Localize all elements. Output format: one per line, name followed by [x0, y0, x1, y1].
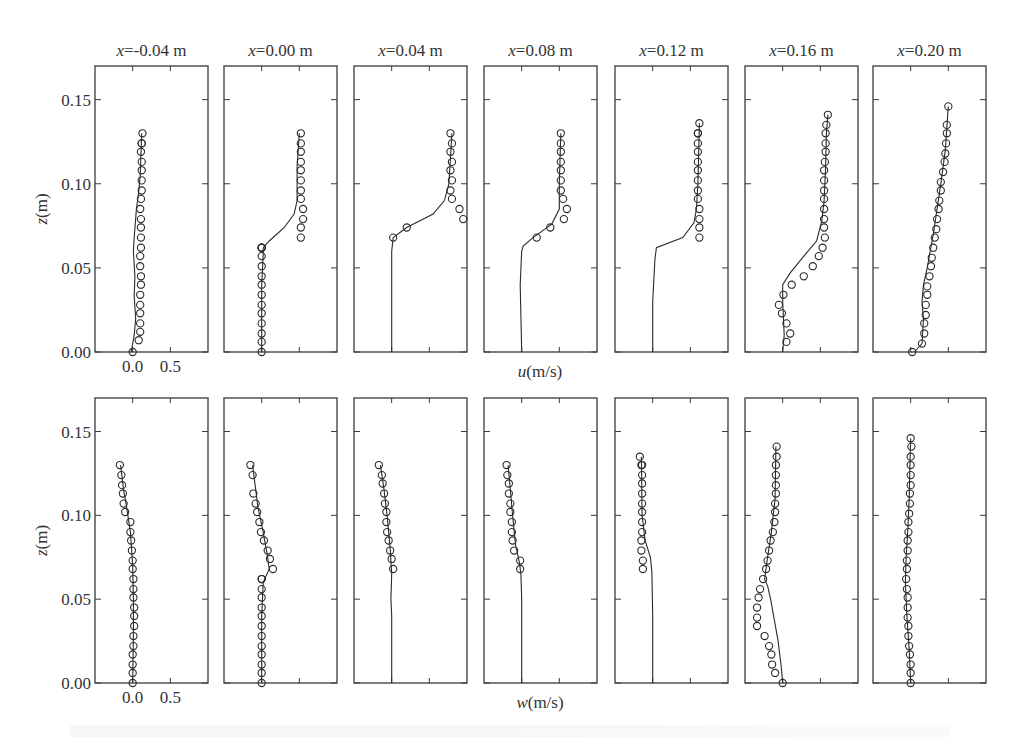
measured-point — [252, 500, 259, 507]
measured-point — [696, 215, 703, 222]
column-title: x=0.16 m — [768, 41, 833, 60]
x-tick-label: 0.0 — [122, 688, 143, 707]
measured-point — [638, 537, 645, 544]
measured-point — [560, 215, 567, 222]
column-title: x=0.04 m — [377, 41, 442, 60]
measured-point — [119, 482, 126, 489]
measured-point — [903, 575, 910, 582]
column-title: x=0.00 m — [247, 41, 312, 60]
model-line — [508, 465, 522, 683]
panel-r1-c4 — [615, 398, 728, 683]
x-tick-label: 0.5 — [160, 688, 181, 707]
caption-faded — [70, 725, 950, 737]
measured-point — [639, 557, 646, 564]
measured-point — [933, 215, 940, 222]
model-line — [783, 115, 828, 352]
measured-point — [297, 130, 304, 137]
measured-point — [300, 205, 307, 212]
panel-r1-c5 — [745, 398, 858, 687]
measured-point — [297, 224, 304, 231]
measured-point — [508, 518, 515, 525]
measured-point — [696, 224, 703, 231]
measured-point — [258, 594, 265, 601]
measured-point — [771, 518, 778, 525]
measured-point — [761, 632, 768, 639]
panel-r0-c5: x=0.16 m — [745, 41, 858, 352]
x-tick-label: 0.0 — [122, 357, 143, 376]
measured-point — [557, 177, 564, 184]
measured-point — [503, 461, 510, 468]
measured-point — [258, 263, 265, 270]
measured-point — [907, 482, 914, 489]
measured-point — [907, 461, 914, 468]
measured-point — [383, 518, 390, 525]
measured-point — [447, 167, 454, 174]
measured-point — [447, 130, 454, 137]
measured-point — [922, 301, 929, 308]
x-axis-label: w(m/s) — [516, 693, 563, 712]
measured-point — [138, 177, 145, 184]
column-title: x=0.08 m — [507, 41, 572, 60]
measured-point — [131, 604, 138, 611]
measured-point — [756, 586, 763, 593]
measured-point — [815, 253, 822, 260]
measured-point — [116, 461, 123, 468]
measured-point — [694, 140, 701, 147]
measured-point — [780, 291, 787, 298]
measured-point — [137, 195, 144, 202]
model-line — [914, 106, 948, 352]
measured-point — [924, 291, 931, 298]
measured-point — [821, 167, 828, 174]
measured-point — [137, 291, 144, 298]
model-line — [380, 465, 391, 683]
measured-point — [269, 565, 276, 572]
measured-point — [139, 130, 146, 137]
x-tick-label: 0.5 — [160, 357, 181, 376]
model-line — [392, 133, 452, 352]
measured-point — [768, 651, 775, 658]
measured-point — [787, 330, 794, 337]
measured-point — [800, 273, 807, 280]
measured-point — [921, 330, 928, 337]
measured-point — [384, 529, 391, 536]
measured-point — [138, 167, 145, 174]
measured-point — [905, 622, 912, 629]
measured-point — [772, 490, 779, 497]
measured-point — [819, 244, 826, 251]
measured-point — [821, 177, 828, 184]
model-line — [121, 465, 134, 683]
measured-point — [448, 195, 455, 202]
measured-point — [137, 281, 144, 288]
measured-point — [904, 547, 911, 554]
column-title: x=-0.04 m — [115, 41, 186, 60]
measured-point — [905, 529, 912, 536]
measured-point — [759, 575, 766, 582]
measured-point — [119, 490, 126, 497]
column-title: x=0.12 m — [638, 41, 703, 60]
measured-point — [694, 148, 701, 155]
measured-point — [258, 244, 265, 251]
measured-point — [137, 253, 144, 260]
measured-point — [766, 643, 773, 650]
measured-point — [390, 565, 397, 572]
measured-point — [131, 622, 138, 629]
y-tick-label: 0.00 — [61, 674, 91, 693]
measured-point — [505, 480, 512, 487]
measured-point — [137, 215, 144, 222]
measured-point — [563, 205, 570, 212]
panel-r0-c2: x=0.04 m — [354, 41, 467, 352]
measured-point — [788, 281, 795, 288]
measured-point — [822, 130, 829, 137]
measured-point — [773, 443, 780, 450]
x-axis-label: u(m/s) — [518, 362, 562, 381]
measured-point — [137, 244, 144, 251]
measured-point — [769, 661, 776, 668]
panel-r0-c3: x=0.08 m — [484, 41, 597, 352]
measured-point — [753, 622, 760, 629]
measured-point — [504, 472, 511, 479]
measured-point — [904, 594, 911, 601]
measured-point — [137, 263, 144, 270]
measured-point — [821, 205, 828, 212]
measured-point — [137, 234, 144, 241]
measured-point — [297, 234, 304, 241]
